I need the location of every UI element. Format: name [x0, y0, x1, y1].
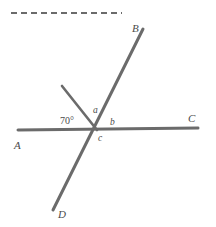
point-label-A: A — [14, 140, 21, 151]
diagram-canvas — [0, 0, 216, 227]
geometry-figure: A B C D a b c 70° — [0, 0, 216, 227]
point-label-D: D — [58, 209, 66, 220]
point-label-C: C — [188, 113, 195, 124]
angle-measure-70-degrees: 70° — [60, 116, 74, 126]
angle-label-c: c — [98, 134, 102, 144]
point-label-B: B — [132, 23, 139, 34]
angle-label-b: b — [110, 118, 115, 128]
line-AC — [18, 128, 198, 130]
angle-label-a: a — [93, 106, 98, 116]
